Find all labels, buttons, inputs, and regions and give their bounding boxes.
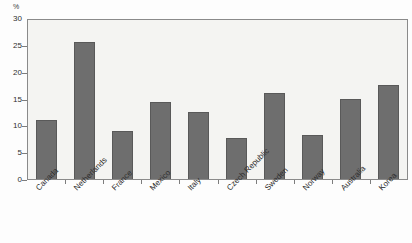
x-axis-tick xyxy=(294,180,295,184)
plot-area xyxy=(27,19,408,180)
x-axis-tick xyxy=(218,180,219,184)
bar-slot xyxy=(331,20,369,179)
bar-slot xyxy=(218,20,256,179)
x-axis-tick xyxy=(370,180,371,184)
x-axis-tick xyxy=(256,180,257,184)
bar-slot xyxy=(66,20,104,179)
y-axis-tick-label-15: 15 xyxy=(2,96,22,104)
bar-slot xyxy=(142,20,180,179)
bar-slot xyxy=(180,20,218,179)
bar-series xyxy=(28,20,407,179)
bar-slot xyxy=(28,20,66,179)
bar-slot xyxy=(104,20,142,179)
bar-netherlands[interactable] xyxy=(74,42,95,179)
y-axis-tick-label-25: 25 xyxy=(2,42,22,50)
x-axis-tick xyxy=(179,180,180,184)
y-axis-tick-label-0: 0 xyxy=(2,176,22,184)
x-axis-tick xyxy=(65,180,66,184)
y-axis-labels: 302520151050 xyxy=(0,0,22,243)
y-axis-tick-label-30: 30 xyxy=(2,15,22,23)
bar-korea[interactable] xyxy=(378,85,399,179)
bar-slot xyxy=(369,20,407,179)
bar-italy[interactable] xyxy=(188,112,209,179)
x-axis-tick xyxy=(332,180,333,184)
x-axis-tick xyxy=(103,180,104,184)
bar-mexico[interactable] xyxy=(150,102,171,179)
bar-slot xyxy=(293,20,331,179)
y-axis-tick-label-20: 20 xyxy=(2,69,22,77)
y-axis-tick-label-10: 10 xyxy=(2,122,22,130)
bar-chart-figure: % 302520151050 CanadaNetherlandsFranceMe… xyxy=(0,0,412,243)
y-axis-tick-0 xyxy=(22,180,27,181)
x-axis-tick xyxy=(141,180,142,184)
y-axis-tick-label-5: 5 xyxy=(2,149,22,157)
